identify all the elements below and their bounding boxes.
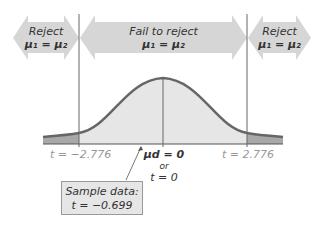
sample-pointer — [126, 147, 141, 180]
center-title: Fail to reject — [80, 25, 247, 38]
center-t-label: t = 0 — [140, 171, 188, 184]
center-hypothesis: μ₁ = μ₂ — [80, 38, 247, 51]
center-labels: μd = 0 or t = 0 — [140, 148, 188, 184]
sample-data-box: Sample data: t = −0.699 — [61, 181, 143, 215]
left-critical-value: t = −2.776 — [50, 148, 111, 161]
right-critical-value: t = 2.776 — [222, 148, 274, 161]
left-title: Reject — [13, 25, 79, 38]
center-fail-label: Fail to reject μ₁ = μ₂ — [80, 25, 247, 51]
left-reject-label: Reject μ₁ = μ₂ — [13, 25, 79, 51]
center-or-label: or — [140, 161, 188, 171]
sample-value: t = −0.699 — [62, 199, 142, 213]
right-reject-label: Reject μ₁ = μ₂ — [248, 25, 311, 51]
left-hypothesis: μ₁ = μ₂ — [13, 38, 79, 51]
center-mu-label: μd = 0 — [140, 148, 188, 161]
right-hypothesis: μ₁ = μ₂ — [248, 38, 311, 51]
right-title: Reject — [248, 25, 311, 38]
sample-title: Sample data: — [62, 185, 142, 199]
